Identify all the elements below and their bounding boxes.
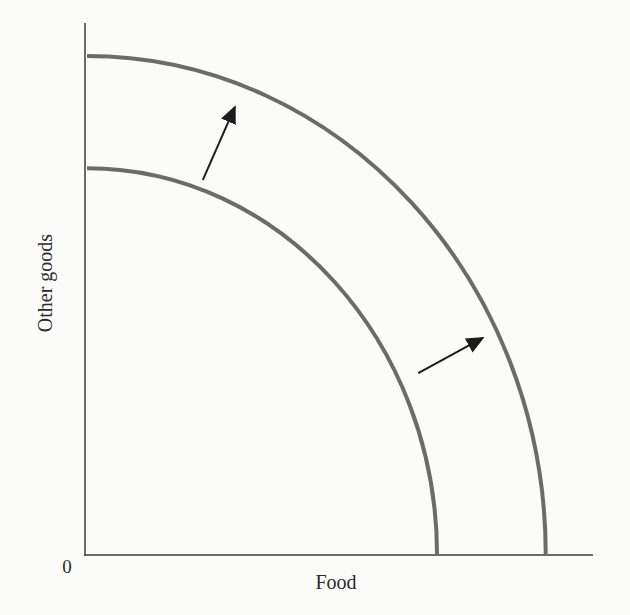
ppf-outer-curve bbox=[87, 56, 546, 555]
shift-arrow-lower bbox=[418, 338, 483, 373]
ppf-inner-curve bbox=[87, 168, 437, 555]
shift-arrow-upper bbox=[203, 107, 235, 180]
y-axis-label: Other goods bbox=[34, 234, 57, 333]
ppf-chart: Other goods Food 0 bbox=[0, 0, 630, 615]
x-axis-label: Food bbox=[315, 571, 356, 593]
ppf-figure: Other goods Food 0 bbox=[0, 0, 630, 615]
origin-label: 0 bbox=[62, 556, 72, 577]
